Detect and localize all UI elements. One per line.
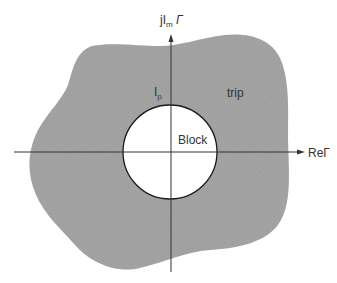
impedance-plane-diagram: jIm Γ ReΓ trip Block Ip bbox=[0, 0, 337, 283]
imaginary-axis-label: jIm Γ bbox=[159, 13, 184, 29]
imaginary-axis-arrow-icon bbox=[169, 34, 174, 42]
trip-label: trip bbox=[227, 86, 244, 100]
real-axis-arrow-icon bbox=[297, 150, 305, 155]
block-label: Block bbox=[178, 133, 208, 147]
real-axis-label: ReΓ bbox=[308, 146, 330, 160]
